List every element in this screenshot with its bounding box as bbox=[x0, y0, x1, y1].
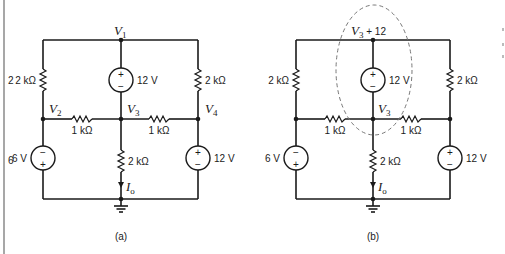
circuit-b: + − − + + − V3 + 12 V3 2 kΩ 2 k bbox=[265, 5, 487, 242]
current-arrow-icon bbox=[118, 182, 124, 188]
node-left bbox=[294, 117, 299, 122]
label-src-left: 6 V bbox=[12, 153, 27, 164]
voltage-source-top-12v: + − bbox=[109, 68, 133, 92]
circuit-a: + − − + + − V1 V2 V3 V4 bbox=[12, 23, 235, 242]
label-r-center: 2 kΩ bbox=[128, 156, 149, 167]
node-v4 bbox=[196, 117, 201, 122]
edge-mark bbox=[502, 43, 504, 46]
svg-text:−: − bbox=[40, 147, 46, 158]
label-src-top: 12 V bbox=[389, 75, 410, 86]
label-io: Io bbox=[125, 179, 135, 196]
edge-mark bbox=[502, 28, 504, 31]
resistor-center-2k bbox=[118, 150, 124, 172]
svg-text:+: + bbox=[370, 69, 376, 80]
svg-text:−: − bbox=[118, 81, 124, 92]
current-arrow-icon bbox=[370, 182, 376, 188]
node-right bbox=[448, 117, 453, 122]
label-io: Io bbox=[377, 179, 387, 196]
label-v3: V3 bbox=[127, 101, 140, 118]
label-r-left: 2 kΩ bbox=[268, 75, 289, 86]
node-v2 bbox=[41, 117, 46, 122]
label-v2: V2 bbox=[49, 101, 61, 118]
svg-text:+: + bbox=[195, 147, 201, 158]
label-r-right: 2 kΩ bbox=[205, 75, 226, 86]
label-v3: V3 bbox=[378, 101, 391, 118]
caption-b: (b) bbox=[367, 231, 379, 242]
caption-a: (a) bbox=[115, 231, 127, 242]
label-src-right: 12 V bbox=[214, 153, 235, 164]
label-r-mid-right: 1 kΩ bbox=[149, 125, 170, 136]
voltage-source-right-12v: + − bbox=[186, 146, 210, 170]
node-v3 bbox=[119, 117, 124, 122]
resistor-mid-right-1k bbox=[401, 116, 421, 122]
label-v4: V4 bbox=[205, 101, 218, 118]
label-r-mid-right: 1 kΩ bbox=[401, 125, 422, 136]
svg-text:+: + bbox=[447, 147, 453, 158]
label-src-right: 12 V bbox=[466, 153, 487, 164]
label-r-left: 2 kΩ bbox=[15, 75, 36, 86]
resistor-left-2k bbox=[40, 69, 46, 91]
resistor-right-2k bbox=[447, 69, 453, 91]
resistor-mid-right-1k bbox=[149, 116, 169, 122]
label-src-left: 6 V bbox=[265, 153, 280, 164]
circuit-figure: 2 6 + − − + bbox=[0, 0, 505, 254]
margin-char-1: 2 bbox=[8, 75, 14, 86]
label-v1: V1 bbox=[114, 23, 126, 40]
label-r-mid-left: 1 kΩ bbox=[325, 125, 346, 136]
svg-text:+: + bbox=[118, 69, 124, 80]
resistor-left-2k bbox=[293, 69, 299, 91]
resistor-mid-left-1k bbox=[72, 116, 92, 122]
edge-mark bbox=[502, 55, 504, 58]
ground-icon bbox=[114, 199, 128, 212]
label-r-right: 2 kΩ bbox=[457, 75, 478, 86]
voltage-source-left-6v: − + bbox=[31, 146, 55, 170]
resistor-mid-left-1k bbox=[325, 116, 345, 122]
svg-text:+: + bbox=[40, 159, 46, 170]
node-top bbox=[371, 38, 376, 43]
svg-text:−: − bbox=[370, 81, 376, 92]
resistor-right-2k bbox=[195, 69, 201, 91]
resistor-center-2k bbox=[370, 150, 376, 172]
svg-text:−: − bbox=[195, 159, 201, 170]
node-v3 bbox=[371, 117, 376, 122]
label-src-top: 12 V bbox=[137, 75, 158, 86]
label-r-mid-left: 1 kΩ bbox=[72, 125, 93, 136]
voltage-source-top-12v: + − bbox=[361, 68, 385, 92]
label-r-center: 2 kΩ bbox=[380, 156, 401, 167]
label-v3-plus-12: V3 + 12 bbox=[351, 23, 386, 40]
svg-text:+: + bbox=[293, 159, 299, 170]
svg-text:−: − bbox=[293, 147, 299, 158]
ground-icon bbox=[366, 199, 380, 212]
voltage-source-right-12v: + − bbox=[438, 146, 462, 170]
voltage-source-left-6v: − + bbox=[284, 146, 308, 170]
svg-text:−: − bbox=[447, 159, 453, 170]
